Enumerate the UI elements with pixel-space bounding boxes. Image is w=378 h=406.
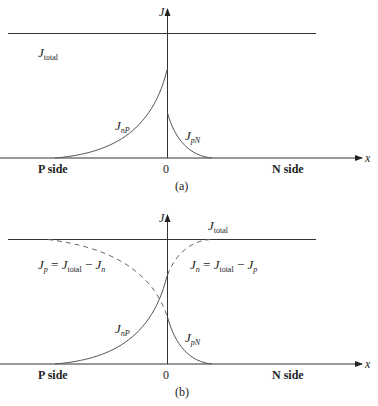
j-nP-label: JnP — [115, 321, 130, 338]
caption-a: (a) — [175, 179, 188, 193]
j-p-dashed-curve — [48, 240, 167, 317]
p-side-label: P side — [38, 368, 68, 382]
y-axis-label: J — [159, 211, 165, 225]
n-side-label: N side — [272, 162, 304, 176]
caption-b: (b) — [175, 385, 189, 399]
j-total-label: Jtotal — [38, 45, 59, 62]
panel-a: J x Jtotal JnP JpN P side 0 N side (a) — [0, 5, 371, 193]
origin-label: 0 — [163, 162, 169, 176]
x-axis-label: x — [364, 151, 371, 165]
j-nP-label: JnP — [115, 118, 130, 135]
x-axis-label: x — [364, 357, 371, 371]
j-nP-curve — [55, 276, 167, 364]
jp-equation: Jp = Jtotal − Jn — [38, 257, 105, 274]
panel-b: J x Jtotal Jp = Jtotal − Jn Jn = Jtotal … — [0, 211, 371, 399]
pn-junction-current-diagram: J x Jtotal JnP JpN P side 0 N side (a) J… — [0, 0, 378, 406]
n-side-label: N side — [272, 368, 304, 382]
j-pN-label: JpN — [185, 128, 201, 145]
p-side-label: P side — [38, 162, 68, 176]
y-axis-label: J — [159, 5, 165, 19]
j-pN-label: JpN — [185, 330, 201, 347]
j-total-label: Jtotal — [208, 218, 229, 235]
origin-label: 0 — [163, 368, 169, 382]
j-nP-curve — [55, 70, 167, 158]
jn-equation: Jn = Jtotal − Jp — [190, 257, 257, 274]
